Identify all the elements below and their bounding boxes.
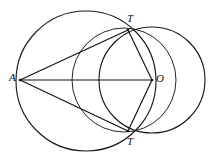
vertex-label-A: A	[9, 72, 16, 83]
vertex-label-Tprime: T	[127, 136, 133, 147]
segment-Tprime-to-O	[128, 80, 152, 131]
point-O-marker	[151, 79, 154, 82]
vertex-label-T: T	[127, 13, 133, 24]
point-Tprime-marker	[127, 130, 130, 133]
point-A-marker	[19, 79, 22, 82]
point-T-marker	[127, 29, 130, 32]
segment-T-to-O	[128, 30, 152, 80]
figure-canvas	[0, 0, 214, 159]
vertex-label-O: O	[156, 73, 164, 84]
segment-A-to-Tprime	[20, 80, 128, 131]
geometry-figure: A T T O	[0, 0, 214, 159]
segment-A-to-T	[20, 30, 128, 80]
